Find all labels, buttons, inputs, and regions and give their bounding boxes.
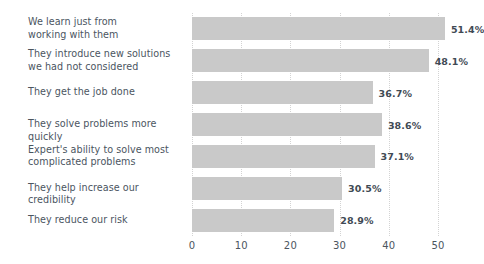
- bar[interactable]: [192, 81, 373, 104]
- category-label-line: working with them: [28, 29, 182, 42]
- x-tick-label: 30: [333, 240, 346, 251]
- category-label-line: complicated problems: [28, 156, 182, 169]
- x-tick-label: 40: [382, 240, 395, 251]
- category-label-line: They reduce our risk: [28, 214, 182, 227]
- category-label-line: They get the job done: [28, 86, 182, 99]
- bar[interactable]: [192, 209, 334, 232]
- bar[interactable]: [192, 177, 342, 200]
- bar-rows: 51.4%48.1%36.7%38.6%37.1%30.5%28.9%: [192, 13, 438, 236]
- category-label: We learn just fromworking with them: [28, 16, 182, 41]
- category-label: They introduce new solutionswe had not c…: [28, 48, 182, 73]
- gridline-50: [438, 13, 439, 236]
- bar-row: 28.9%: [192, 209, 438, 232]
- category-label: They reduce our risk: [28, 214, 182, 227]
- bar[interactable]: [192, 17, 445, 40]
- bar-value-label: 37.1%: [381, 151, 414, 162]
- category-label: They help increase our credibility: [28, 182, 182, 207]
- plot-area: 51.4%48.1%36.7%38.6%37.1%30.5%28.9%: [192, 13, 438, 236]
- category-axis-labels: We learn just fromworking with themThey …: [0, 13, 186, 236]
- bar-value-label: 36.7%: [379, 87, 412, 98]
- bar-value-label: 28.9%: [340, 215, 373, 226]
- category-label: They get the job done: [28, 86, 182, 99]
- category-label-line: we had not considered: [28, 61, 182, 74]
- x-tick-label: 10: [235, 240, 248, 251]
- bar-value-label: 51.4%: [451, 23, 484, 34]
- category-label: Expert's ability to solve mostcomplicate…: [28, 144, 182, 169]
- bar-value-label: 38.6%: [388, 119, 421, 130]
- category-label-line: They introduce new solutions: [28, 48, 182, 61]
- x-tick-label: 20: [284, 240, 297, 251]
- x-axis-tick-labels: 01020304050: [192, 240, 438, 260]
- bar[interactable]: [192, 49, 429, 72]
- bar-row: 36.7%: [192, 81, 438, 104]
- bar-row: 51.4%: [192, 17, 438, 40]
- category-label-line: They help increase our credibility: [28, 182, 182, 207]
- x-tick-label: 50: [431, 240, 444, 251]
- bar[interactable]: [192, 145, 375, 168]
- category-label-line: Expert's ability to solve most: [28, 144, 182, 157]
- category-label-line: They solve problems more quickly: [28, 118, 182, 143]
- bar-row: 37.1%: [192, 145, 438, 168]
- bar-row: 48.1%: [192, 49, 438, 72]
- bar-value-label: 48.1%: [435, 55, 468, 66]
- bar-row: 38.6%: [192, 113, 438, 136]
- bar[interactable]: [192, 113, 382, 136]
- x-tick-label: 0: [189, 240, 196, 251]
- bar-value-label: 30.5%: [348, 183, 381, 194]
- category-label-line: We learn just from: [28, 16, 182, 29]
- category-label: They solve problems more quickly: [28, 118, 182, 143]
- bar-row: 30.5%: [192, 177, 438, 200]
